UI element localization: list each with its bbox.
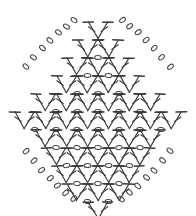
stitch-top-bar [135, 94, 145, 95]
chain-stitch [142, 36, 150, 43]
chain-stitch [126, 23, 134, 30]
chain-stitch [63, 23, 71, 30]
stitch-layer [9, 22, 186, 216]
chain-stitch [30, 157, 38, 164]
chain-stitch [46, 175, 54, 182]
double-crochet-leg [88, 202, 98, 216]
chain-stitch [150, 167, 158, 174]
stitch-row [83, 22, 113, 39]
stitch-row [62, 58, 134, 78]
chain-stitch [22, 147, 30, 154]
stitch-row [52, 166, 144, 186]
stitch-row [52, 76, 145, 97]
chain-stitch [39, 44, 47, 51]
crochet-diagram [0, 0, 196, 216]
chain-stitch [136, 145, 143, 150]
chain-stitch [95, 181, 102, 185]
chain-stitch [134, 182, 142, 189]
stitch-top-bar [155, 94, 165, 95]
stitch-row [72, 40, 123, 60]
chain-stitch [95, 145, 102, 150]
chain-stitch [166, 147, 174, 154]
chain-stitch [150, 44, 158, 51]
chain-stitch [55, 29, 63, 36]
chain-stitch [84, 163, 91, 167]
chain-stitch [73, 145, 80, 150]
chain-stitch [30, 54, 38, 61]
chain-stitch [134, 29, 142, 36]
chain-stitch [95, 55, 102, 59]
chain-stitch [105, 164, 112, 168]
chain-stitch [115, 181, 122, 186]
chain-stitch [126, 189, 134, 196]
chain-stitch [158, 54, 166, 61]
chain-stitch [105, 73, 112, 77]
chain-stitch [84, 74, 91, 78]
chain-stitch [126, 163, 133, 168]
chain-stitch [118, 195, 126, 202]
chain-stitch [22, 63, 30, 70]
chain-stitch [167, 63, 175, 70]
chain-stitch [70, 17, 78, 24]
stitch-diagram-canvas [0, 0, 196, 216]
chain-stitch [46, 37, 54, 44]
chain-stitch [54, 182, 62, 189]
stitch-top-bar [145, 148, 155, 149]
chain-stitch [38, 167, 46, 174]
chain-stitch [63, 163, 70, 168]
chain-stitch [143, 174, 151, 181]
chain-stitch [119, 17, 127, 24]
double-crochet-leg [98, 202, 107, 216]
stitch-row [41, 148, 154, 168]
chain-stitch [52, 145, 59, 150]
stitch-row [31, 94, 165, 115]
chain-stitch [62, 189, 70, 196]
edge-chain-run [119, 17, 175, 71]
chain-stitch [74, 181, 81, 185]
chain-stitch [115, 145, 122, 150]
chain-stitch [159, 157, 167, 164]
